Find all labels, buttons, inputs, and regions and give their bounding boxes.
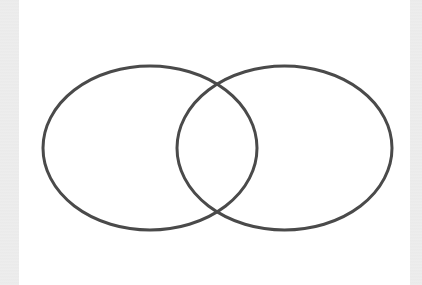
right-set-ellipse bbox=[177, 66, 392, 230]
venn-diagram bbox=[0, 0, 422, 285]
left-set-ellipse bbox=[43, 66, 257, 230]
